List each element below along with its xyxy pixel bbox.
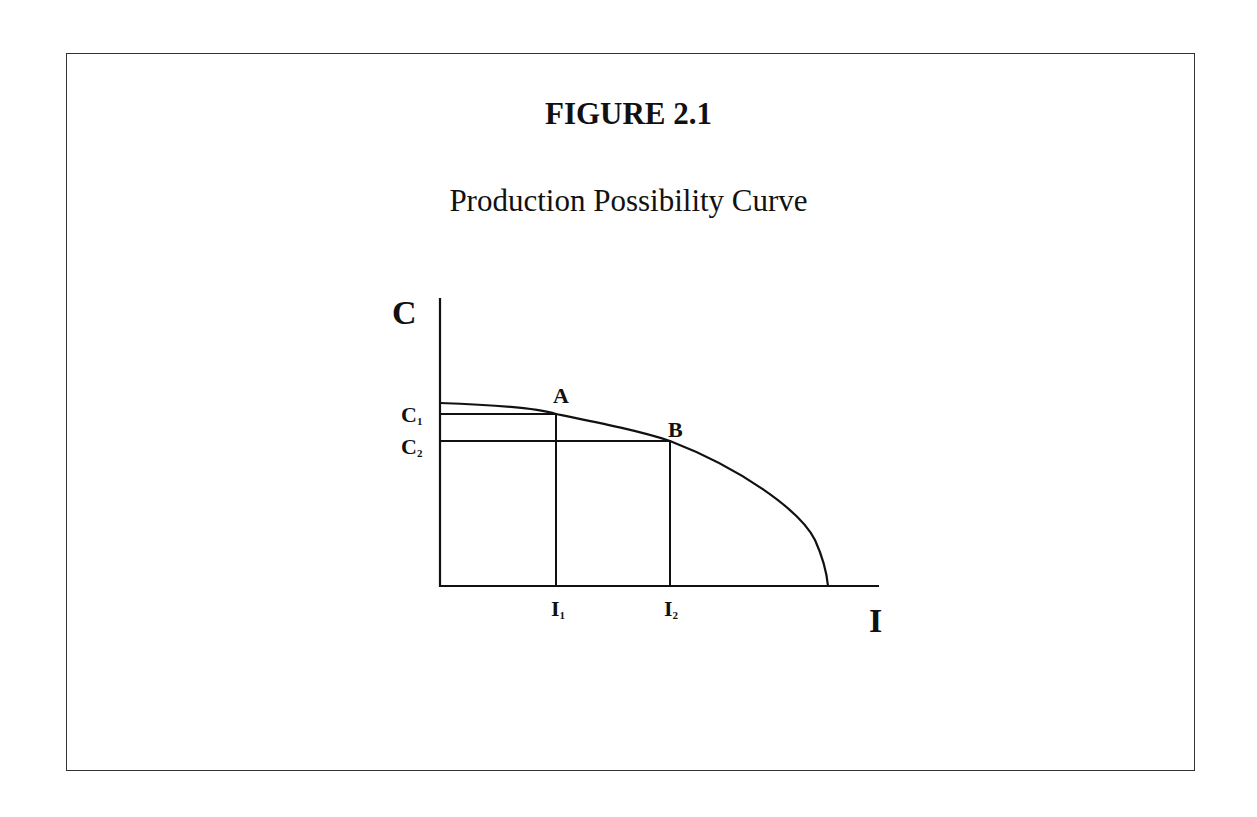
c2-label: C2 [401,434,423,459]
i2-label: I2 [664,596,679,621]
c1-label: C1 [401,402,422,427]
x-axis-label: I [869,602,882,639]
y-axis-label: C [392,294,417,331]
ppc-curve [440,403,828,586]
i1-label: I1 [551,596,565,621]
point-b-label: B [668,417,683,442]
point-a-label: A [553,383,569,408]
ppc-chart: C I A B C1 C2 I1 I2 [0,0,1257,817]
